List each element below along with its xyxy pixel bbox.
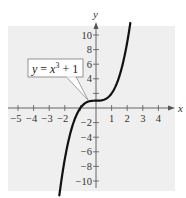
- y-tick-label: −8: [81, 161, 92, 172]
- equation-label: y = x3 + 1: [31, 61, 78, 76]
- x-tick-label: 1: [109, 113, 114, 124]
- x-tick-label: −4: [26, 113, 38, 124]
- y-tick-label: 4: [87, 73, 93, 84]
- y-axis-label: y: [92, 8, 98, 20]
- y-tick-label: 8: [87, 44, 92, 55]
- y-tick-label: 10: [82, 30, 93, 41]
- y-tick-label: 6: [87, 59, 92, 70]
- y-axis-arrow-icon: [94, 22, 99, 29]
- x-axis-label: x: [177, 102, 183, 114]
- x-tick-label: −5: [10, 113, 21, 124]
- x-tick-label: 2: [125, 113, 130, 124]
- x-tick-label: −3: [42, 113, 53, 124]
- y-tick-label: −10: [76, 176, 92, 187]
- y-tick-label: −6: [81, 146, 92, 157]
- x-tick-label: 4: [156, 113, 162, 124]
- cubic-function-graph: x −5 −4 −3 −2 1 2 3 4 y: [0, 0, 186, 198]
- y-tick-label: −4: [81, 132, 93, 143]
- x-tick-label: −2: [57, 113, 68, 124]
- y-tick-label: −2: [81, 117, 92, 128]
- x-tick-label: 3: [140, 113, 145, 124]
